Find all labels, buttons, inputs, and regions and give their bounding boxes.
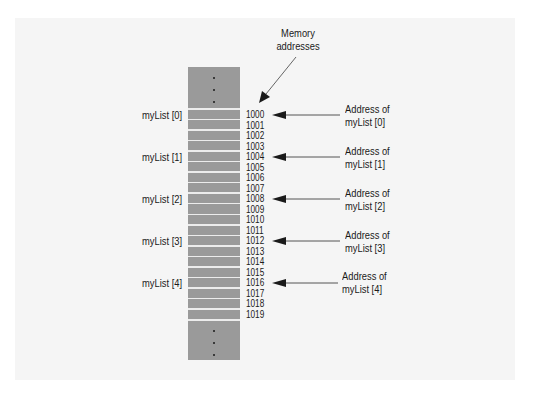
address-arrow-0 (272, 111, 340, 119)
address-arrow-1 (272, 153, 340, 161)
address-arrow-2 (272, 195, 340, 203)
memory-addresses-pointer-arrow (259, 57, 296, 103)
arrows-layer (0, 0, 534, 393)
address-arrow-4 (272, 279, 338, 287)
address-arrow-3 (272, 237, 340, 245)
